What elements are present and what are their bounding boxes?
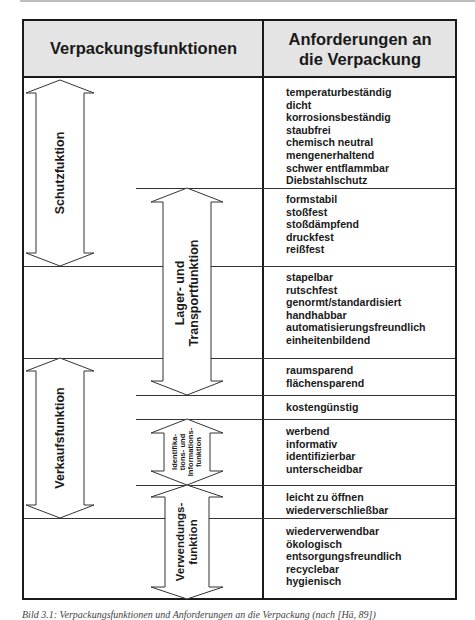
label-lager-transportfunktion: Lager- und Transportfunktion	[173, 240, 201, 347]
function-arrows	[24, 21, 459, 602]
label-verkaufsfunktion: Verkaufsfunktion	[53, 387, 67, 488]
figure-caption: Bild 3.1: Verpackungsfunktionen und Anfo…	[22, 609, 376, 620]
packaging-functions-table: Verpackungsfunktionen Anforderungen andi…	[22, 19, 457, 600]
label-line: Verwendungs-	[174, 503, 186, 582]
label-line: Lager- und	[173, 261, 187, 326]
label-line: Transportfunktion	[187, 240, 201, 347]
label-verwendungsfunktion: Verwendungs- funktion	[174, 503, 200, 582]
label-line: funktion	[187, 519, 199, 564]
page-top-rule	[20, 0, 475, 2]
label-schutzfunktion: Schutzfuktion	[53, 132, 67, 215]
label-line: funktion	[194, 437, 203, 467]
label-ident-informationsfunktion: Identifika- tions- und Informations- fun…	[171, 428, 203, 477]
